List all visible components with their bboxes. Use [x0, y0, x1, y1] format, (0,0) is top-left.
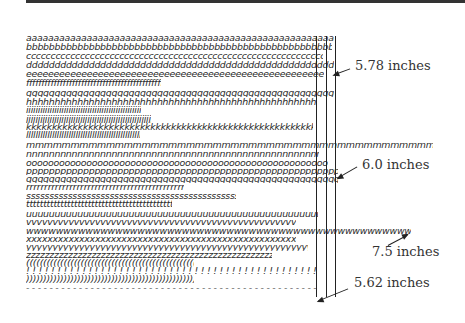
specimen-line-r: rrrrrrrrrrrrrrrrrrrrrrrrrrrrrrrrrrrrrrrr…	[26, 182, 184, 191]
specimen-line-d: dddddddddddddddddddddddddddddddddddddddd…	[26, 60, 334, 69]
specimen-line-c: cccccccccccccccccccccccccccccccccccccccc…	[26, 51, 323, 60]
specimen-line-i: iiiiiiiiiiiiiiiiiiiiiiiiiiiiiiiiiiiiiiii…	[26, 105, 141, 114]
specimen-line-e: eeeeeeeeeeeeeeeeeeeeeeeeeeeeeeeeeeeeeeee…	[26, 69, 324, 78]
specimen-line-v: vvvvvvvvvvvvvvvvvvvvvvvvvvvvvvvvvvvvvvvv…	[26, 217, 296, 226]
arrow-6-0-icon	[338, 166, 358, 178]
specimen-line-m: mmmmmmmmmmmmmmmmmmmmmmmmmmmmmmmmmmmmmmmm…	[26, 140, 433, 149]
label-5-78-inches: 5.78 inches	[355, 58, 431, 73]
rule-5-62-inches	[316, 36, 317, 297]
specimen-line-sym28: ))))))))))))))))))))))))))))))))))))))))…	[26, 274, 194, 283]
label-6-0-inches: 6.0 inches	[362, 157, 429, 172]
specimen-line-f: ffffffffffffffffffffffffffffffffffffffff…	[26, 78, 161, 87]
label-5-62-inches: 5.62 inches	[354, 275, 430, 290]
label-7-5-inches: 7.5 inches	[372, 244, 439, 259]
rule-5-78-inches	[326, 36, 327, 297]
specimen-line-g: gggggggggggggggggggggggggggggggggggggggg…	[26, 88, 334, 97]
specimen-line-l: llllllllllllllllllllllllllllllllllllllll…	[26, 130, 140, 139]
arrow-5-62-icon	[318, 288, 348, 301]
specimen-line-t: tttttttttttttttttttttttttttttttttttttttt…	[26, 199, 172, 208]
specimen-line-sym29: - - - - - - - - - - - - - - - - - - - - …	[26, 283, 316, 292]
specimen-line-n: nnnnnnnnnnnnnnnnnnnnnnnnnnnnnnnnnnnnnnnn…	[26, 149, 319, 158]
specimen-line-a: aaaaaaaaaaaaaaaaaaaaaaaaaaaaaaaaaaaaaaaa…	[26, 33, 334, 42]
top-rule	[26, 0, 465, 3]
specimen-line-b: bbbbbbbbbbbbbbbbbbbbbbbbbbbbbbbbbbbbbbbb…	[26, 42, 332, 51]
